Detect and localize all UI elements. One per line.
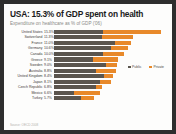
bar-category-label: Mexico	[10, 91, 44, 95]
bar-track	[54, 80, 166, 84]
bar-segment-public	[54, 74, 104, 78]
bar-segment-private	[81, 96, 94, 100]
legend-item[interactable]: Public	[128, 65, 141, 69]
bar-value-label: 8.8%	[44, 69, 54, 73]
chart-subtitle: Expenditure on healthcare as % of GDP ('…	[10, 20, 166, 27]
bar-category-label: Turkey	[10, 96, 44, 100]
bar-category-label: France	[10, 41, 44, 45]
bar-category-label: Canada	[10, 52, 44, 56]
bar-category-label: Japan	[10, 80, 44, 84]
chart-plot-area: United States15.3%Switzerland11.3%France…	[10, 29, 166, 111]
chart-legend: PublicPrivate	[128, 65, 164, 69]
chart-frame: USA: 15.3% of GDP spent on health Expend…	[4, 4, 172, 130]
bar-track	[54, 57, 166, 61]
bar-segment-private	[74, 91, 100, 95]
bar-segment-private	[102, 35, 134, 39]
bar-category-label: Greece	[10, 58, 44, 62]
bar-track	[54, 96, 166, 100]
bar-segment-public	[54, 57, 93, 61]
bar-segment-private	[115, 41, 131, 45]
bar-category-label: Sweden	[10, 63, 44, 67]
bar-value-label: 8.1%	[44, 80, 54, 84]
bar-value-label: 5.7%	[44, 96, 54, 100]
chart-source: Source: OECD 2008	[10, 123, 38, 127]
bar-category-label: Germany	[10, 46, 44, 50]
bar-segment-public	[54, 91, 74, 95]
bar-value-label: 15.3%	[44, 30, 54, 34]
bar-track	[54, 41, 166, 45]
bar-track	[54, 85, 166, 89]
bar-track	[54, 69, 166, 73]
bar-category-label: Australia	[10, 69, 44, 73]
legend-item[interactable]: Private	[149, 65, 164, 69]
bar-segment-private	[106, 63, 117, 67]
bar-value-label: 9.1%	[44, 58, 54, 62]
bar-segment-private	[104, 74, 112, 78]
bar-segment-public	[54, 30, 103, 34]
bar-segment-public	[54, 63, 106, 67]
bar-track	[54, 74, 166, 78]
bar-segment-public	[54, 96, 81, 100]
bar-value-label: 8.4%	[44, 74, 54, 78]
bar-value-label: 11.0%	[44, 41, 54, 45]
bar-category-label: United States	[10, 30, 44, 34]
bar-value-label: 10.6%	[44, 46, 54, 50]
bar-value-label: 9.0%	[44, 63, 54, 67]
bar-category-label: Czech Republic	[10, 85, 44, 89]
bar-segment-private	[100, 80, 111, 84]
bar-track	[54, 52, 166, 56]
bar-value-label: 11.3%	[44, 35, 54, 39]
legend-label: Private	[153, 65, 164, 69]
chart-card: USA: 15.3% of GDP spent on health Expend…	[4, 4, 172, 130]
bar-value-label: 6.8%	[44, 85, 54, 89]
bar-track	[54, 91, 166, 95]
chart-title: USA: 15.3% of GDP spent on health	[10, 9, 166, 19]
bar-value-label: 10.0%	[44, 52, 54, 56]
bar-track	[54, 30, 166, 34]
bar-segment-private	[103, 30, 161, 34]
bar-segment-private	[96, 85, 102, 89]
bar-segment-private	[96, 69, 116, 73]
bar-track	[54, 35, 166, 39]
bar-segment-private	[93, 57, 118, 61]
bar-category-label: Switzerland	[10, 35, 44, 39]
chart-bar-row: Turkey5.7%	[10, 96, 166, 102]
bar-segment-public	[54, 80, 100, 84]
bar-segment-public	[54, 35, 102, 39]
bar-segment-private	[103, 52, 124, 56]
bar-segment-private	[111, 46, 129, 50]
legend-swatch-icon	[149, 66, 152, 69]
bar-segment-public	[54, 69, 96, 73]
bar-category-label: United Kingdom	[10, 74, 44, 78]
bar-value-label: 6.6%	[44, 91, 54, 95]
bar-segment-public	[54, 46, 111, 50]
bar-track	[54, 46, 166, 50]
bar-segment-public	[54, 52, 103, 56]
bar-segment-public	[54, 41, 115, 45]
legend-label: Public	[132, 65, 141, 69]
legend-swatch-icon	[128, 66, 131, 69]
bar-segment-public	[54, 85, 96, 89]
